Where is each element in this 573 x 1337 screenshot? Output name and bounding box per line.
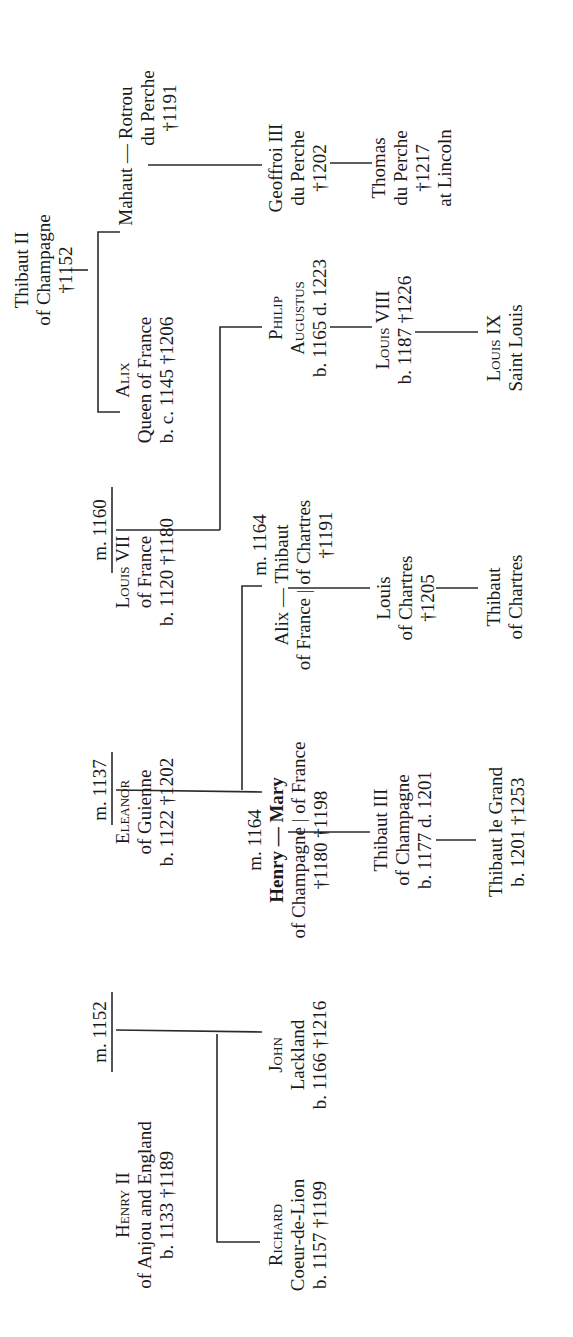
person-henry-mary-couple: m. 1164 Henry — Mary of Champagne | of F… [244,742,332,939]
person-louis-of-chartres: Louis of Chartres †1205 [373,556,439,641]
person-thomas: Thomas du Perche †1217 at Lincoln [368,129,456,207]
person-henry-ii: Henry II of Anjou and England b. 1133 †1… [112,1121,178,1288]
person-john-lackland: John Lackland b. 1166 †1216 [265,1001,331,1110]
person-richard-coeur-de-lion: Richard Coeur-de-Lion b. 1157 †1199 [265,1179,331,1292]
person-thibaut-iii: Thibaut III of Champagne b. 1177 d. 1201 [370,771,436,889]
marriage-label-1160: m. 1160 [89,499,111,561]
person-eleanor: Eleanor of Guienne b. 1122 †1202 [112,758,178,867]
person-geoffroi-iii: Geoffroi III du Perche †1202 [265,124,331,213]
person-alix-thibaut-couple: m. 1164 Alix — Thibaut of France | of Ch… [249,500,337,671]
person-thibaut-of-chartres: Thibaut of Chartres [483,555,527,640]
person-thibaut-ii: Thibaut II of Champagne †1152 [11,214,77,325]
person-philip-augustus: Philip Augustus b. 1165 d. 1223 [265,259,331,377]
person-louis-vii: Louis VII of France b. 1120 †1180 [112,518,178,626]
person-thibaut-le-grand: Thibaut le Grand b. 1201 †1253 [485,767,529,897]
person-alix-queen-of-france: Alix Queen of France b. c. 1145 †1206 [112,317,178,444]
person-louis-ix: Louis IX Saint Louis [483,304,527,391]
person-louis-viii: Louis VIII b. 1187 †1226 [372,276,416,385]
marriage-label-1152: m. 1152 [89,1001,111,1063]
marriage-label-1137: m. 1137 [89,759,111,821]
person-mahaut-rotrou: Mahaut — Rotrou du Perche †1191 [115,70,181,225]
